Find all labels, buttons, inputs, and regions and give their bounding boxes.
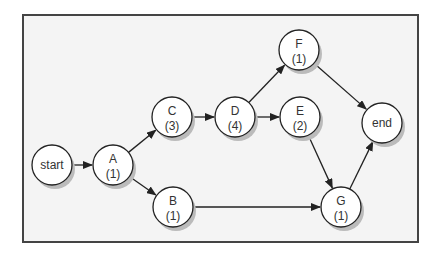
network-diagram: startA(1)B(1)C(3)D(4)E(2)F(1)endG(1) (0, 0, 442, 254)
node-label: end (372, 116, 392, 130)
node-duration: (3) (165, 119, 180, 133)
node-label: D (231, 104, 240, 118)
node-label: C (168, 104, 177, 118)
node-duration: (1) (166, 209, 181, 223)
edge-G-to-end (350, 142, 373, 189)
node-duration: (1) (106, 167, 121, 181)
node-C: C(3) (152, 97, 195, 141)
node-label: G (336, 194, 345, 208)
node-duration: (4) (228, 119, 243, 133)
node-E: E(2) (280, 97, 323, 141)
node-duration: (1) (334, 209, 349, 223)
edge-A-to-B (129, 176, 155, 194)
node-duration: (1) (292, 52, 307, 66)
node-label: start (40, 158, 64, 172)
node-label: F (295, 37, 302, 51)
node-G: G(1) (321, 187, 364, 231)
node-D: D(4) (215, 97, 258, 141)
edge-D-to-F (249, 65, 285, 102)
node-duration: (2) (293, 119, 308, 133)
node-label: B (169, 194, 177, 208)
node-start: start (32, 145, 75, 189)
node-label: A (109, 152, 117, 166)
node-B: B(1) (153, 187, 196, 231)
node-F: F(1) (279, 30, 322, 74)
edge-E-to-G (308, 135, 332, 188)
node-end: end (362, 103, 405, 147)
edge-F-to-end (314, 63, 366, 109)
node-label: E (296, 104, 304, 118)
edge-A-to-C (129, 130, 156, 152)
